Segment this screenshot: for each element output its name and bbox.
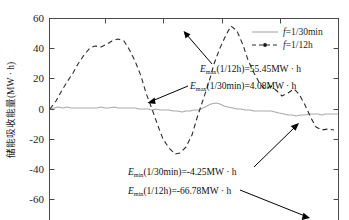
y-tick-label-minus40: -40 [29, 163, 44, 175]
y-tick-label-40: 40 [33, 42, 45, 54]
annotation-emin-1-30min: Emin(1/30min)=-4.25MW · h [127, 167, 237, 178]
legend-marker-dot [263, 43, 267, 47]
y-axis-title: 储能吸收能量(MW · h) [5, 62, 17, 158]
annotation-2-rest: (1/30min)=4.08MW · h [206, 81, 296, 92]
annotation-4-rest: (1/12h)=-66.78MW · h [143, 186, 231, 197]
annotation-emax-1-30min: Emax(1/30min)=4.08MW · h [189, 81, 297, 92]
y-tick-label-20: 20 [33, 72, 45, 84]
annotation-1-rest: (1/12h)=55.45MW · h [216, 64, 301, 75]
legend-label-2: f=1/12h [283, 40, 313, 50]
y-tick-label-60: 60 [33, 12, 45, 24]
annotation-emax-1-12h: Emax(1/12h)=55.45MW · h [199, 64, 301, 75]
annotation-3-rest: (1/30min)=-4.25MW · h [143, 167, 236, 178]
chart-legend: f=1/30min f=1/12h [252, 27, 323, 50]
legend-label-1-value: =1/30min [286, 27, 323, 37]
annotation-emin-1-12h: Emin(1/12h)=-66.78MW · h [127, 186, 231, 197]
x-axis-ticks [106, 19, 281, 24]
legend-label-2-value: =1/12h [286, 40, 313, 50]
y-tick-label-minus20: -20 [29, 133, 44, 145]
series-solid-f-1-30min [50, 103, 338, 116]
annotation-4-subscript: min [134, 190, 144, 197]
annotation-3-subscript: min [134, 171, 144, 178]
energy-absorption-chart: 60 40 20 0 -20 -40 -60 储能吸收能量(MW · h) f=… [0, 0, 349, 220]
chart-figure: 60 40 20 0 -20 -40 -60 储能吸收能量(MW · h) f=… [0, 0, 349, 220]
y-tick-label-0: 0 [39, 103, 45, 115]
legend-label-1: f=1/30min [283, 27, 323, 37]
y-tick-label-minus60: -60 [29, 193, 44, 205]
